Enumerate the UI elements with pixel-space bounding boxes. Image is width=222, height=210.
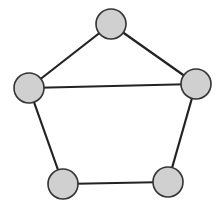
- node-top: [96, 9, 126, 39]
- nodes-group: [14, 9, 211, 199]
- edge-left-right: [29, 84, 196, 88]
- node-bottom-right: [153, 167, 183, 197]
- node-bottom-left: [48, 169, 78, 199]
- node-right: [181, 69, 211, 99]
- graph-diagram: [0, 0, 222, 210]
- node-left: [14, 73, 44, 103]
- edges-group: [29, 24, 196, 184]
